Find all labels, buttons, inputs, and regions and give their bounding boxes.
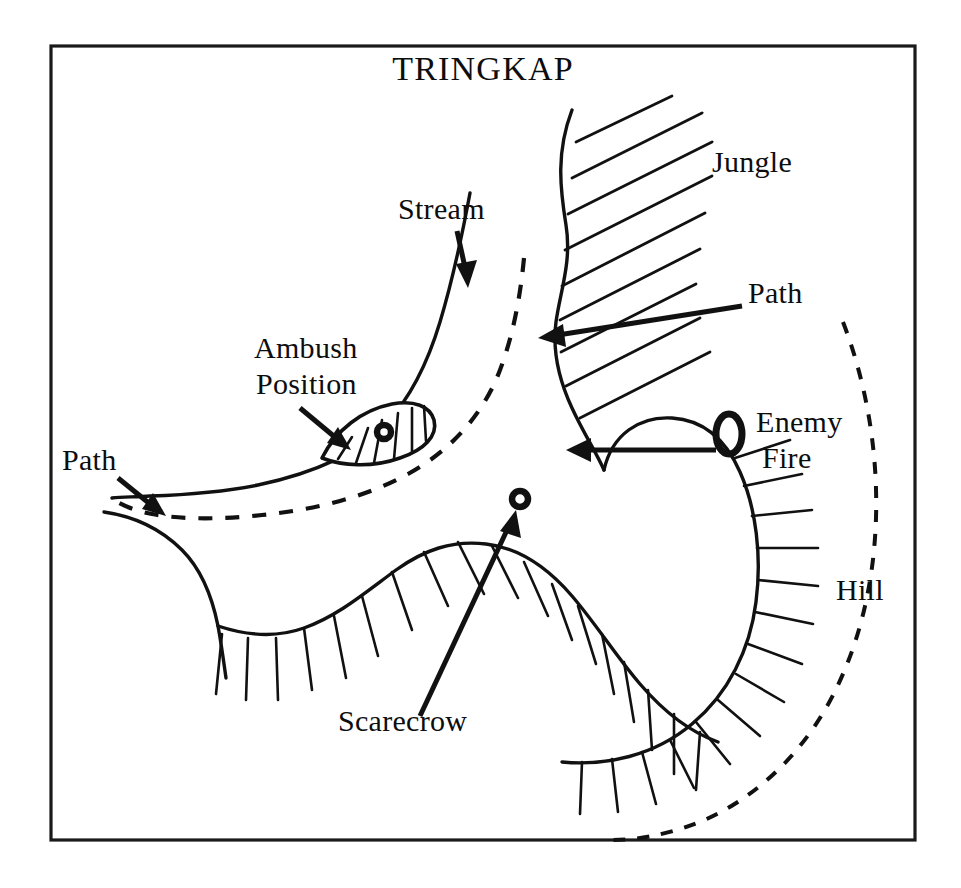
map-title: TRINGKAP xyxy=(392,50,574,87)
scarecrow-ring-marker xyxy=(512,491,528,507)
hill-main-outline xyxy=(562,418,758,763)
label-jungle: Jungle xyxy=(712,145,792,178)
label-enemy-line2: Fire xyxy=(762,441,812,474)
label-ambush-line1: Ambush xyxy=(254,331,357,364)
label-enemy-line1: Enemy xyxy=(756,405,842,438)
lower-left-ridge-line xyxy=(104,512,226,678)
label-hill: Hill xyxy=(836,573,884,606)
jungle-boundary-curve xyxy=(555,110,604,470)
label-path-right: Path xyxy=(748,276,803,309)
map-canvas: TRINGKAP Jungle Stream Path Ambush Posit… xyxy=(0,0,961,888)
enemy-fire-leader-arrow xyxy=(566,438,716,462)
stream-leader-arrow xyxy=(456,231,477,288)
label-scarecrow: Scarecrow xyxy=(338,704,467,737)
jungle-hatch-area xyxy=(555,96,712,470)
ambush-center-marker xyxy=(377,425,391,439)
label-path-left: Path xyxy=(62,443,117,476)
hill-ridge-left-crest xyxy=(218,543,718,742)
label-ambush-line2: Position xyxy=(256,367,357,400)
jungle-hatch-lines xyxy=(560,96,712,418)
enemy-fire-ring-marker xyxy=(716,414,742,454)
tringkap-map: TRINGKAP Jungle Stream Path Ambush Posit… xyxy=(0,0,961,888)
label-stream: Stream xyxy=(398,192,485,225)
scarecrow-leader-arrow xyxy=(420,510,521,716)
